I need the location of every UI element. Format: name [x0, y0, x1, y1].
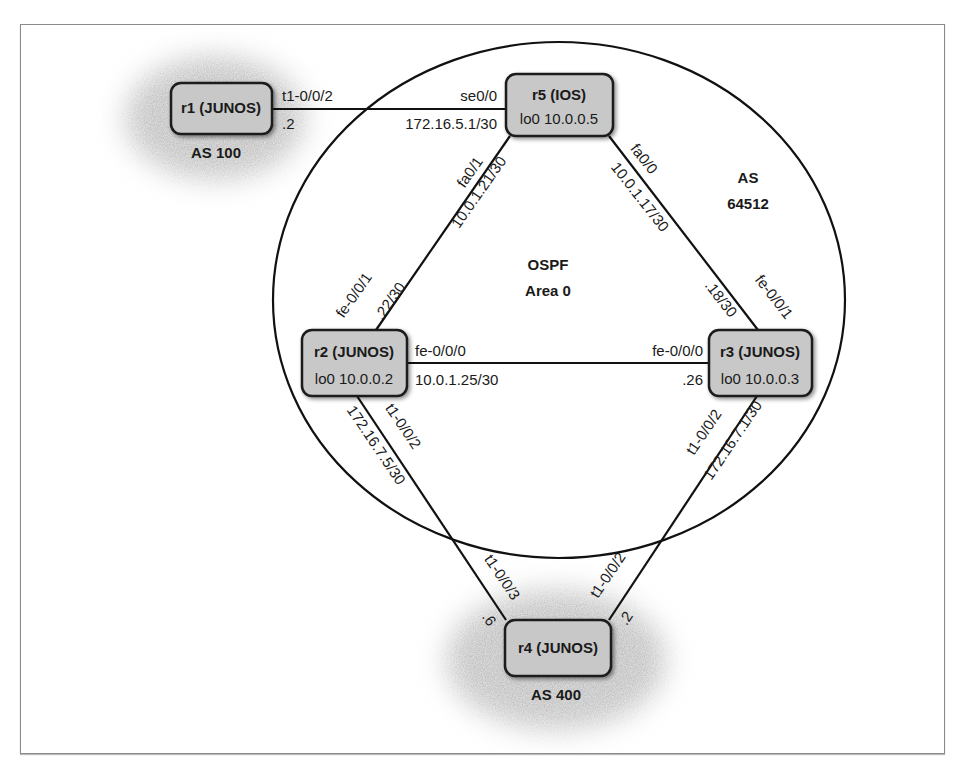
r1-r5-subnet-label: 172.16.5.1/30: [405, 115, 497, 132]
r5-r3-subnet-label: 10.0.1.17/30: [608, 159, 673, 235]
router-r3-loopback: lo0 10.0.0.3: [721, 370, 799, 387]
as100-label: AS 100: [191, 144, 241, 161]
r3-fe000-label: fe-0/0/0: [652, 342, 703, 359]
r2-fe000-label: fe-0/0/0: [415, 342, 466, 359]
as64512-label-line2: 64512: [727, 195, 769, 212]
area-label: Area 0: [525, 282, 571, 299]
router-r2-loopback: lo0 10.0.0.2: [315, 370, 393, 387]
r1-address-label: .2: [282, 115, 295, 132]
as64512-label-line1: AS: [738, 169, 759, 186]
r2-fe001-label: fe-0/0/1: [332, 269, 375, 320]
router-r5-name: r5 (IOS): [532, 86, 586, 103]
r4-t1-003-label: t1-0/0/3: [481, 551, 524, 603]
router-r2-name: r2 (JUNOS): [314, 343, 394, 360]
network-diagram: r1 (JUNOS) AS 100 r5 (IOS) lo0 10.0.0.5 …: [0, 0, 967, 770]
router-r3-name: r3 (JUNOS): [720, 343, 800, 360]
r2-fe001-address-label: .22/30: [371, 279, 409, 323]
r3-fe001-label: fe-0/0/1: [752, 271, 797, 322]
router-r4-name: r4 (JUNOS): [518, 639, 598, 656]
ospf-label: OSPF: [528, 256, 569, 273]
as400-label: AS 400: [531, 686, 581, 703]
link-r5-r3: [609, 136, 758, 330]
router-r5-loopback: lo0 10.0.0.5: [520, 110, 598, 127]
r1-interface-label: t1-0/0/2: [282, 87, 333, 104]
r2-r3-subnet-label: 10.0.1.25/30: [415, 371, 498, 388]
r3-fe000-address-label: .26: [682, 371, 703, 388]
router-r1-name: r1 (JUNOS): [181, 99, 261, 116]
r5-se-interface-label: se0/0: [460, 87, 497, 104]
link-r2-r4: [357, 396, 506, 620]
